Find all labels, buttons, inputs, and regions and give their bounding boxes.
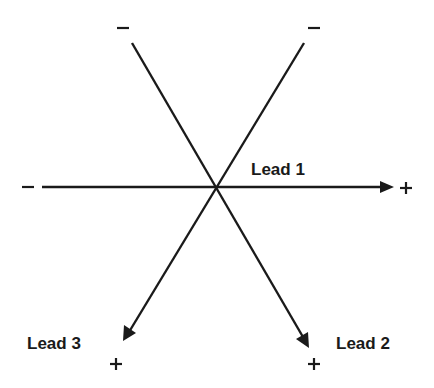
lead3-label: Lead 3	[27, 334, 81, 353]
lead1-arrowhead-icon	[380, 181, 394, 193]
lead1-label: Lead 1	[251, 160, 305, 179]
lead3-arrowhead-icon	[123, 325, 136, 341]
lead1-positive-sign	[400, 182, 412, 194]
lead2-label: Lead 2	[336, 334, 390, 353]
lead2-positive-sign	[308, 358, 320, 370]
lead-axes-diagram: Lead 1 Lead 2 Lead 3	[0, 0, 434, 388]
lead2-axis	[117, 28, 320, 370]
lead3-axis	[110, 28, 320, 370]
lead3-positive-sign	[110, 358, 122, 370]
